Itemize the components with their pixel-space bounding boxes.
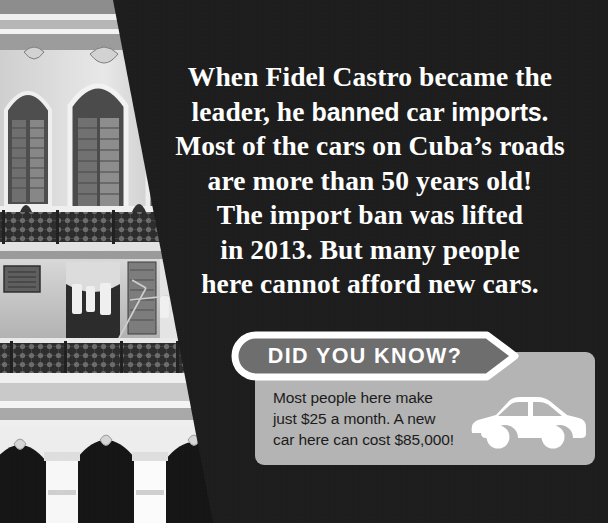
fact-body-line-1: Most people here make xyxy=(273,387,483,408)
headline-line-1: When Fidel Castro became the xyxy=(160,60,580,95)
headline-line-5: The import ban was lifted xyxy=(160,198,580,233)
fact-body-text: Most people here make just $25 a month. … xyxy=(273,387,483,450)
car-icon xyxy=(466,389,588,451)
headline-line-2-mid: car xyxy=(399,96,451,127)
headline-line-4: are more than 50 years old! xyxy=(160,164,580,199)
headline-line-7: here cannot afford new cars. xyxy=(160,267,580,302)
headline-line-6: in 2013. But many people xyxy=(160,233,580,268)
headline-line-2-pre: leader, he xyxy=(192,96,312,127)
headline-line-3: Most of the cars on Cuba’s roads xyxy=(160,129,580,164)
car-silhouette xyxy=(466,389,588,451)
banner-label: DID YOU KNOW? xyxy=(231,331,499,381)
headline-emphasis-banned: banned xyxy=(312,98,400,126)
did-you-know-banner: DID YOU KNOW? xyxy=(231,331,519,381)
fact-body-line-2: just $25 a month. A new xyxy=(273,408,483,429)
headline-emphasis-imports: imports xyxy=(451,98,541,126)
headline-line-2: leader, he banned car imports. xyxy=(160,95,580,130)
infographic-page: When Fidel Castro became the leader, he … xyxy=(0,0,608,523)
headline-line-2-post: . xyxy=(541,96,548,127)
page-headline: When Fidel Castro became the leader, he … xyxy=(160,60,580,302)
fact-body-line-3: car here can cost $85,000! xyxy=(273,429,483,450)
